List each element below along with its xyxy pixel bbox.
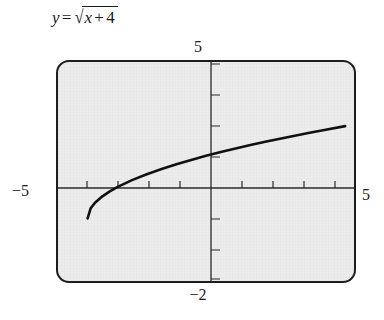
radicand: x+4	[82, 6, 118, 28]
equation-equals: =	[60, 8, 74, 27]
graphing-calculator-screen	[56, 60, 356, 283]
radicand-operator: +	[92, 8, 106, 27]
plot-area	[58, 62, 354, 281]
y-max-label: 5	[0, 38, 384, 56]
y-min-label: −2	[0, 286, 384, 304]
equation-label: y=√x+4	[52, 6, 118, 28]
x-max-label: 5	[362, 186, 370, 204]
radicand-number: 4	[106, 8, 115, 27]
x-min-label: −5	[12, 182, 29, 200]
function-curve	[88, 126, 346, 218]
radical-expression: √x+4	[74, 6, 118, 28]
equation-lhs: y	[52, 8, 60, 27]
y-axis-ticks	[211, 64, 220, 279]
radical-sign-icon: √	[75, 6, 84, 28]
